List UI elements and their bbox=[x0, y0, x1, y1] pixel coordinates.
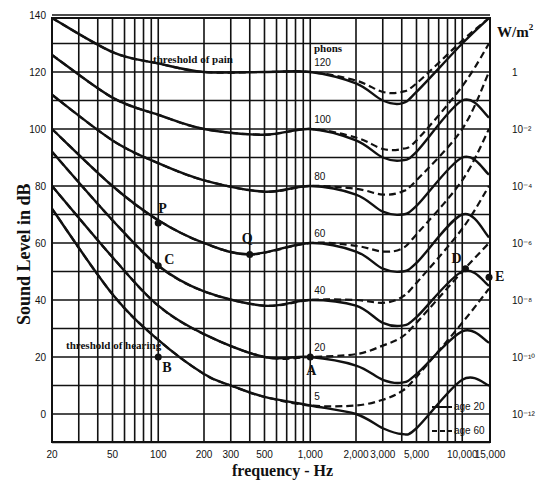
legend-age60: age 60 bbox=[454, 425, 485, 436]
curve-age60 bbox=[52, 152, 489, 306]
x-tick: 500 bbox=[256, 449, 273, 460]
y-tick: 20 bbox=[35, 352, 47, 363]
y2-tick: 10⁻¹⁰ bbox=[512, 352, 535, 363]
curve-age20 bbox=[52, 129, 489, 272]
point-p bbox=[155, 220, 162, 227]
x-tick: 100 bbox=[150, 449, 167, 460]
y-tick: 140 bbox=[29, 10, 46, 21]
y2-tick: 1 bbox=[512, 67, 518, 78]
y2-tick: 10⁻⁴ bbox=[512, 181, 532, 192]
point-label: A bbox=[306, 363, 317, 378]
y-tick: 40 bbox=[35, 295, 47, 306]
x-tick: 1,000 bbox=[298, 449, 323, 460]
x-tick: 20 bbox=[46, 449, 58, 460]
y-tick: 100 bbox=[29, 124, 46, 135]
point-b bbox=[155, 354, 162, 361]
point-d bbox=[462, 265, 469, 272]
y2-tick: 10⁻² bbox=[512, 124, 532, 135]
legend: age 20 age 60 bbox=[432, 401, 485, 436]
grid bbox=[52, 15, 490, 443]
curve-age60 bbox=[52, 209, 489, 407]
x-tick: 10,000 bbox=[447, 449, 478, 460]
phon-label: 20 bbox=[314, 342, 326, 353]
point-a bbox=[307, 354, 314, 361]
y2-tick: 10⁻⁸ bbox=[512, 295, 532, 306]
phon-label: 5 bbox=[314, 391, 320, 402]
curve-age20 bbox=[52, 95, 489, 215]
x-tick: 50 bbox=[107, 449, 119, 460]
axis-ticks: 02040608010012014020501002003005001,0002… bbox=[29, 10, 535, 460]
threshold-of-pain-label: threshold of pain bbox=[153, 53, 233, 65]
curve-age60 bbox=[52, 18, 489, 93]
y-tick: 0 bbox=[40, 409, 46, 420]
plot-frame bbox=[52, 18, 490, 442]
x-tick: 300 bbox=[222, 449, 239, 460]
curve-age20 bbox=[52, 18, 489, 104]
y-tick: 120 bbox=[29, 67, 46, 78]
x-tick: 3,000 bbox=[370, 449, 395, 460]
point-label: B bbox=[162, 360, 171, 375]
point-label: P bbox=[158, 201, 167, 216]
x-axis-title: frequency - Hz bbox=[232, 462, 333, 480]
y2-axis-title: W/m2 bbox=[497, 22, 534, 40]
phon-label: 120 bbox=[314, 57, 331, 68]
y-axis-title: Sound Level in dB bbox=[14, 183, 34, 325]
point-e bbox=[486, 274, 493, 281]
x-tick: 200 bbox=[196, 449, 213, 460]
x-tick: 5,000 bbox=[404, 449, 429, 460]
loudness-curves: 120100806040205 bbox=[52, 18, 489, 435]
phon-label: 100 bbox=[314, 114, 331, 125]
point-label: Q bbox=[242, 231, 253, 246]
y2-tick: 10⁻¹² bbox=[512, 409, 535, 420]
curve-age20 bbox=[52, 186, 489, 383]
marked-points: PQCBADE bbox=[155, 201, 505, 378]
point-label: C bbox=[164, 252, 174, 267]
x-tick: 15,000 bbox=[475, 449, 506, 460]
equal-loudness-chart: 120100806040205 020406080100120140205010… bbox=[0, 0, 548, 497]
phon-label: 80 bbox=[314, 171, 326, 182]
threshold-of-hearing-label: threshold of hearing bbox=[66, 339, 162, 351]
y-tick: 80 bbox=[35, 181, 47, 192]
point-label: E bbox=[495, 269, 504, 284]
point-label: D bbox=[451, 251, 461, 266]
legend-age20: age 20 bbox=[454, 401, 485, 412]
curve-age60 bbox=[52, 186, 489, 359]
phon-label: 60 bbox=[314, 228, 326, 239]
phon-label: 40 bbox=[314, 285, 326, 296]
point-q bbox=[246, 251, 253, 258]
y-tick: 60 bbox=[35, 238, 47, 249]
point-c bbox=[155, 262, 162, 269]
y2-tick: 10⁻⁶ bbox=[512, 238, 532, 249]
phons-label: phons bbox=[314, 42, 343, 54]
x-tick: 2,000 bbox=[343, 449, 368, 460]
